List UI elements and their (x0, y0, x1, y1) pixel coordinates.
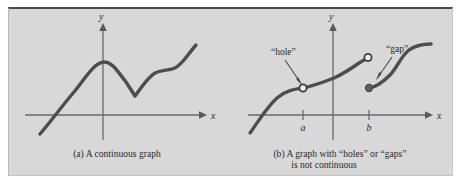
panel-a-caption: (a) A continuous graph (73, 148, 161, 160)
panel-b-y-axis-label: y (328, 11, 334, 22)
panel-b-hole-leader-arrowhead (296, 77, 302, 86)
panel-b-y-axis-arrowhead (329, 23, 337, 31)
figure-canvas: x y (a) A continuous graph x y a b (0, 0, 461, 189)
panel-b-x-axis-arrowhead (425, 111, 433, 119)
panel-b-x-axis-label: x (436, 110, 442, 121)
figure-container: x y (a) A continuous graph x y a b (0, 0, 461, 189)
panel-a-continuous-curve (40, 45, 196, 134)
panel-b-tick-b-label: b (367, 122, 372, 133)
panel-a-y-axis-arrowhead (99, 23, 107, 31)
panel-b-caption-line2: is not continuous (291, 159, 357, 170)
panel-b-curve-left (250, 59, 367, 134)
panel-b-gap-open-circle (364, 54, 371, 61)
panel-b-hole-open-circle (299, 84, 306, 91)
panel-b: x y a b “hole” “gap” (248, 11, 442, 170)
panel-a-x-axis-arrowhead (199, 111, 207, 119)
panel-a-x-axis-label: x (210, 110, 216, 121)
panel-a: x y (a) A continuous graph (25, 11, 216, 160)
panel-b-gap-solid-circle (365, 84, 372, 91)
panel-a-y-axis-label: y (98, 11, 104, 22)
panel-b-hole-callout-label: “hole” (271, 47, 296, 57)
panel-b-gap-callout-label: “gap” (386, 44, 408, 54)
panel-b-tick-a-label: a (301, 122, 306, 133)
